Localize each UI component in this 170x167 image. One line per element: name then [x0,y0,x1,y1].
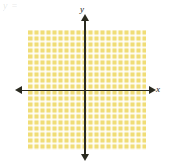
x-axis-label: x [156,85,160,94]
y-axis-label: y [80,5,84,14]
y-axis-up-arrow-icon [81,14,89,21]
y-axis-line [84,17,85,157]
coordinate-plane-figure: y = y x [0,0,170,167]
x-axis-left-arrow-icon [15,86,22,94]
x-axis-right-arrow-icon [149,86,156,94]
y-axis-down-arrow-icon [81,154,89,161]
caption-remnant-text: y = [3,0,33,11]
